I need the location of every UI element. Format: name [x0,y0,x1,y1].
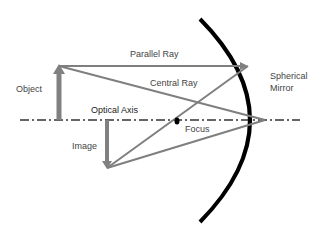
object-label: Object [16,84,43,94]
central-ray-label: Central Ray [150,78,198,88]
optical-axis-label: Optical Axis [91,105,139,115]
ray-diagram: Object Parallel Ray Central Ray Optical … [0,0,318,233]
image-label: Image [72,141,97,151]
parallel-ray-label: Parallel Ray [130,49,179,59]
focus-point [175,118,180,125]
central-ray [59,66,265,120]
focus-label: Focus [185,124,210,134]
mirror-label-line2: Mirror [270,83,294,93]
mirror-label-line1: Spherical [270,71,308,81]
